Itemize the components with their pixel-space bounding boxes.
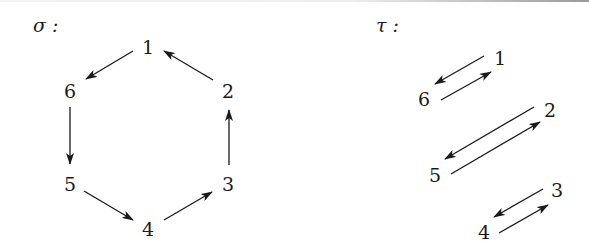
- tau-node-4: 4: [478, 221, 490, 243]
- sigma-arrow-5-to-4: [84, 191, 133, 220]
- permutation-diagrams: σ : 1 2 3 4 5 6 τ : 1 6 2 5 3 4: [0, 0, 589, 251]
- sigma-arrow-4-to-3: [164, 192, 212, 220]
- tau-node-3: 3: [551, 179, 563, 201]
- tau-diagram: τ : 1 6 2 5 3 4: [376, 14, 563, 243]
- sigma-diagram: σ : 1 2 3 4 5 6: [33, 14, 234, 240]
- sigma-node-4: 4: [142, 218, 154, 240]
- tau-node-5: 5: [429, 164, 441, 186]
- tau-title: τ :: [376, 14, 399, 36]
- sigma-arrow-2-to-1: [164, 51, 213, 80]
- sigma-title: σ :: [33, 14, 58, 36]
- sigma-node-2: 2: [222, 80, 234, 102]
- tau-node-1: 1: [494, 47, 506, 69]
- sigma-node-1: 1: [142, 36, 154, 58]
- sigma-node-5: 5: [64, 173, 76, 195]
- sigma-arrow-1-to-6: [86, 51, 133, 79]
- sigma-node-3: 3: [222, 173, 234, 195]
- sigma-node-6: 6: [64, 80, 76, 102]
- tau-node-2: 2: [544, 99, 556, 121]
- tau-node-6: 6: [418, 88, 430, 110]
